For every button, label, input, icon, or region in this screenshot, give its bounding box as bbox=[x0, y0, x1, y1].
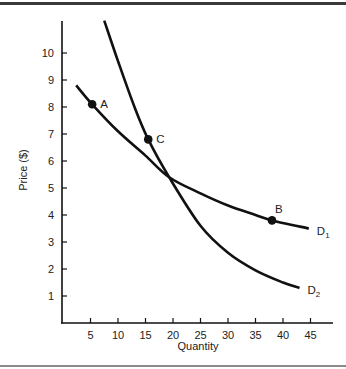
curve-label-d2: D2 bbox=[308, 284, 321, 299]
x-tick-label: 30 bbox=[222, 329, 234, 341]
demand-curve-d2 bbox=[104, 21, 299, 288]
x-axis-ticks: 51015202530354045 bbox=[87, 318, 316, 341]
curve-label-d1: D1 bbox=[317, 225, 330, 240]
demand-curves-chart: 51015202530354045 12345678910 D1D2 ACB Q… bbox=[0, 0, 346, 369]
y-tick-label: 2 bbox=[48, 263, 54, 275]
y-tick-label: 10 bbox=[42, 47, 54, 59]
y-tick-label: 3 bbox=[48, 236, 54, 248]
x-axis-title: Quantity bbox=[178, 340, 219, 352]
point-b-marker bbox=[268, 216, 277, 225]
y-axis-ticks: 12345678910 bbox=[42, 47, 67, 302]
demand-curves: D1D2 bbox=[76, 21, 330, 299]
x-tick-label: 5 bbox=[87, 329, 93, 341]
demand-curve-d1 bbox=[76, 85, 309, 228]
point-a-label: A bbox=[100, 98, 108, 110]
point-c-marker bbox=[144, 135, 153, 144]
x-tick-label: 45 bbox=[304, 329, 316, 341]
point-a-marker bbox=[88, 100, 97, 109]
y-tick-label: 9 bbox=[48, 74, 54, 86]
curve-label-subscript: 2 bbox=[316, 290, 321, 299]
x-tick-label: 35 bbox=[249, 329, 261, 341]
point-b-label: B bbox=[275, 203, 283, 215]
y-tick-label: 8 bbox=[48, 101, 54, 113]
point-c-label: C bbox=[156, 133, 164, 145]
y-tick-label: 4 bbox=[48, 209, 54, 221]
y-tick-label: 1 bbox=[48, 290, 54, 302]
y-axis-title: Price ($) bbox=[17, 149, 29, 191]
curve-label-subscript: 1 bbox=[325, 231, 330, 240]
y-tick-label: 5 bbox=[48, 182, 54, 194]
x-tick-label: 10 bbox=[112, 329, 124, 341]
y-tick-label: 7 bbox=[48, 128, 54, 140]
axes bbox=[61, 21, 333, 324]
x-tick-label: 40 bbox=[277, 329, 289, 341]
x-tick-label: 15 bbox=[139, 329, 151, 341]
y-tick-label: 6 bbox=[48, 155, 54, 167]
